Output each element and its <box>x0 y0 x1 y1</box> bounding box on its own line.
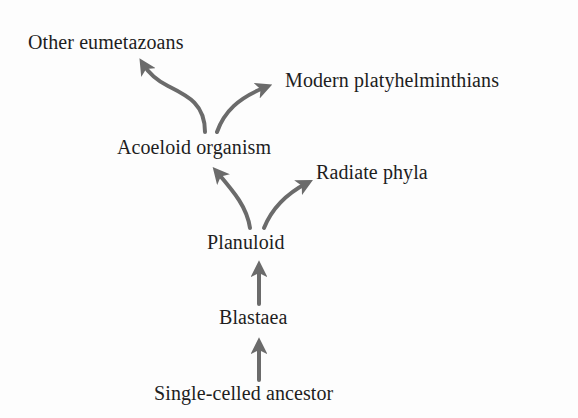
node-modern-platyhelminthians: Modern platyhelminthians <box>285 68 499 92</box>
arrows-layer <box>0 0 578 418</box>
node-radiate-phyla: Radiate phyla <box>316 160 428 184</box>
arrow-acoeloid-to-modern-platyhelminthians <box>217 87 266 132</box>
node-acoeloid-organism: Acoeloid organism <box>117 135 271 159</box>
node-other-eumetazoans: Other eumetazoans <box>28 30 184 54</box>
arrow-acoeloid-to-other-eumetazoans <box>143 64 205 132</box>
arrow-planuloid-to-acoeloid <box>217 172 250 228</box>
arrow-planuloid-to-radiate-phyla <box>264 183 307 228</box>
node-planuloid: Planuloid <box>207 230 285 254</box>
diagram-canvas: Other eumetazoans Modern platyhelminthia… <box>0 0 578 418</box>
node-blastaea: Blastaea <box>219 305 288 329</box>
node-single-celled-ancestor: Single-celled ancestor <box>154 381 333 405</box>
